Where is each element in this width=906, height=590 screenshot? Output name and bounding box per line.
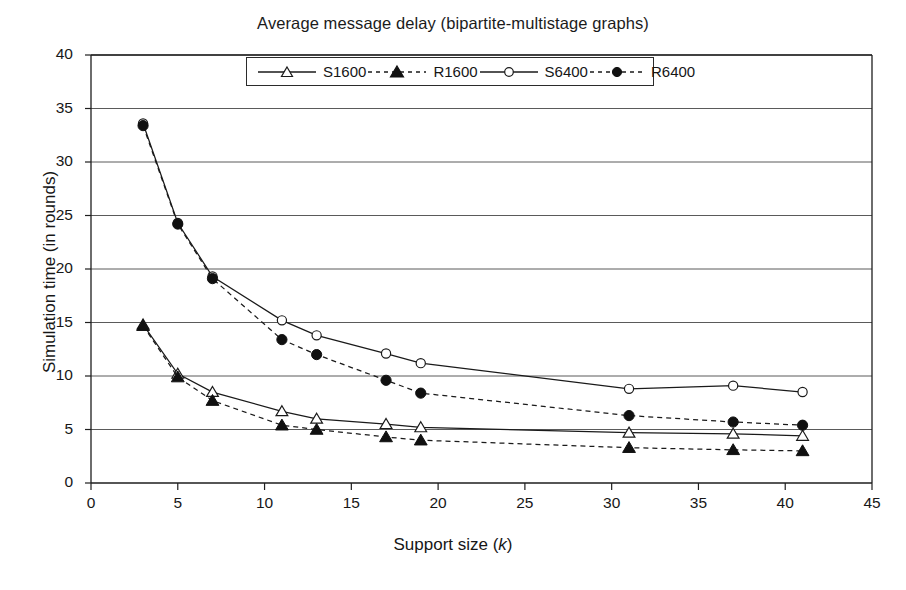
y-tick-label: 15 xyxy=(39,313,73,331)
y-tick-label: 0 xyxy=(39,473,73,491)
data-point xyxy=(416,388,426,398)
y-tick-label: 10 xyxy=(39,366,73,384)
legend-sample-s6400 xyxy=(478,64,540,80)
data-point xyxy=(276,419,289,430)
data-series-layer xyxy=(137,119,809,456)
legend-item-r1600: R1600 xyxy=(366,63,477,80)
y-tick-label: 40 xyxy=(39,45,73,63)
legend-label-r6400: R6400 xyxy=(651,63,695,80)
data-point xyxy=(624,410,634,420)
x-tick-label: 15 xyxy=(334,494,368,512)
data-point xyxy=(797,420,807,430)
data-point xyxy=(728,417,738,427)
data-point xyxy=(624,384,633,393)
y-tick-label: 20 xyxy=(39,259,73,277)
legend-sample-r1600 xyxy=(366,64,428,80)
axis-ticks xyxy=(85,55,872,490)
legend-label-s1600: S1600 xyxy=(323,63,366,80)
data-point xyxy=(173,219,183,229)
series-line-r6400 xyxy=(143,126,803,426)
x-axis-title: Support size (k) xyxy=(0,535,906,555)
y-tick-label: 25 xyxy=(39,206,73,224)
series-r6400 xyxy=(138,121,808,431)
x-tick-label: 40 xyxy=(768,494,802,512)
data-point xyxy=(277,335,287,345)
data-point xyxy=(381,349,390,358)
y-tick-label: 35 xyxy=(39,99,73,117)
y-tick-label: 30 xyxy=(39,152,73,170)
x-tick-label: 20 xyxy=(421,494,455,512)
legend-sample-r6400 xyxy=(588,64,646,80)
data-point xyxy=(623,442,636,453)
x-tick-label: 35 xyxy=(681,494,715,512)
x-tick-label: 45 xyxy=(855,494,889,512)
data-point xyxy=(137,320,150,331)
series-line-s6400 xyxy=(143,123,803,392)
legend-label-s6400: S6400 xyxy=(545,63,588,80)
data-point xyxy=(138,121,148,131)
data-point xyxy=(312,350,322,360)
data-point xyxy=(416,359,425,368)
x-axis-title-variable: k xyxy=(498,535,507,554)
x-tick-label: 30 xyxy=(595,494,629,512)
x-tick-label: 10 xyxy=(248,494,282,512)
series-line-r1600 xyxy=(143,326,803,451)
legend-label-r1600: R1600 xyxy=(433,63,477,80)
series-line-s1600 xyxy=(143,325,803,436)
series-r1600 xyxy=(137,320,809,456)
data-point xyxy=(798,387,807,396)
legend-item-s6400: S6400 xyxy=(478,63,588,80)
data-point xyxy=(207,274,217,284)
x-axis-title-main: Support size ( xyxy=(393,535,498,554)
data-point xyxy=(380,431,393,442)
series-s6400 xyxy=(138,119,807,397)
data-point xyxy=(414,434,427,445)
y-tick-label: 5 xyxy=(39,420,73,438)
data-point xyxy=(381,375,391,385)
chart-figure: Average message delay (bipartite-multist… xyxy=(0,0,906,590)
data-point xyxy=(729,381,738,390)
legend-item-s1600: S1600 xyxy=(256,63,366,80)
x-tick-label: 0 xyxy=(74,494,108,512)
gridlines xyxy=(91,55,872,430)
x-axis-title-close: ) xyxy=(507,535,513,554)
legend-item-r6400: R6400 xyxy=(588,63,695,80)
data-point xyxy=(312,331,321,340)
x-tick-label: 5 xyxy=(161,494,195,512)
x-tick-label: 25 xyxy=(508,494,542,512)
legend-sample-s1600 xyxy=(256,64,318,80)
chart-legend: S1600 R1600 S6400 R6400 xyxy=(246,57,654,86)
series-s1600 xyxy=(137,319,808,440)
data-point xyxy=(277,316,286,325)
